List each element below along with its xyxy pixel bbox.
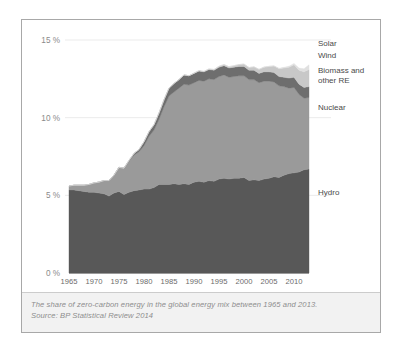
x-tick-label: 2000 — [236, 277, 253, 286]
series-label: Nuclear — [318, 103, 346, 112]
x-tick-label: 2010 — [286, 277, 303, 286]
x-tick-label: 1985 — [161, 277, 178, 286]
y-tick-label: 5 % — [46, 191, 60, 200]
figure-caption: The share of zero-carbon energy in the g… — [22, 292, 380, 332]
series-label: other RE — [318, 76, 350, 85]
y-tick-label: 0 % — [46, 269, 60, 278]
stacked-area-chart: 0 %5 %10 %15 % 1965197019751980198519901… — [22, 20, 380, 292]
series-label: Wind — [318, 51, 336, 60]
x-tick-label: 1970 — [86, 277, 103, 286]
y-tick-labels-group: 0 %5 %10 %15 % — [41, 36, 60, 278]
area-series-group — [69, 63, 309, 273]
x-tick-label: 1980 — [136, 277, 153, 286]
series-label: Biomass and — [318, 66, 364, 75]
x-tick-label: 1995 — [211, 277, 228, 286]
series-label: Solar — [318, 39, 337, 48]
x-tick-label: 2005 — [261, 277, 278, 286]
caption-line-2: Source: BP Statistical Review 2014 — [31, 311, 380, 322]
series-label: Hydro — [318, 188, 340, 197]
y-tick-label: 10 % — [41, 114, 60, 123]
y-tick-label: 15 % — [41, 36, 60, 45]
x-tick-label: 1965 — [61, 277, 78, 286]
caption-line-1: The share of zero-carbon energy in the g… — [31, 300, 380, 311]
x-tick-label: 1990 — [186, 277, 203, 286]
chart-region: 0 %5 %10 %15 % 1965197019751980198519901… — [22, 20, 380, 292]
x-tick-labels-group: 1965197019751980198519901995200020052010 — [61, 277, 303, 286]
figure-card: 0 %5 %10 %15 % 1965197019751980198519901… — [21, 19, 381, 333]
x-tick-label: 1975 — [111, 277, 128, 286]
